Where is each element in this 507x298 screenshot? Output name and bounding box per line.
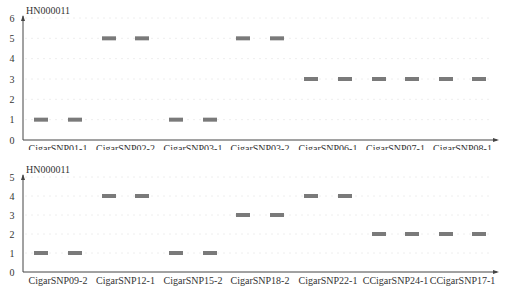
x-tick-label: CigarSNP12-1: [96, 275, 155, 286]
data-marker: [68, 251, 82, 255]
x-axis-arrow-icon: [493, 270, 499, 274]
data-marker: [405, 232, 419, 236]
data-marker: [372, 232, 386, 236]
y-tick-label: 3: [10, 210, 15, 221]
data-marker: [236, 213, 250, 217]
y-axis-arrow-icon: [21, 174, 25, 180]
data-marker: [135, 194, 149, 198]
x-tick-label: CigarSNP09-2: [29, 275, 88, 286]
chart-bottom-svg: HN000011012345CigarSNP09-2CigarSNP12-1Ci…: [0, 0, 507, 298]
chart-panel-bottom: HN000011012345CigarSNP09-2CigarSNP12-1Ci…: [0, 0, 507, 298]
x-tick-label: CigarSNP18-2: [231, 275, 290, 286]
y-tick-label: 1: [10, 248, 15, 259]
y-tick-label: 5: [10, 172, 15, 183]
x-tick-label: CigarSNP22-1: [299, 275, 358, 286]
data-marker: [338, 194, 352, 198]
y-tick-label: 2: [10, 229, 15, 240]
data-marker: [34, 251, 48, 255]
data-marker: [270, 213, 284, 217]
data-marker: [203, 251, 217, 255]
x-tick-label: CigarSNP15-2: [164, 275, 223, 286]
data-marker: [439, 232, 453, 236]
y-tick-label: 4: [10, 191, 15, 202]
x-tick-label: CCigarSNP17-1: [430, 275, 496, 286]
x-tick-label: CCigarSNP24-1: [363, 275, 429, 286]
y-tick-label: 0: [10, 267, 15, 278]
data-marker: [169, 251, 183, 255]
data-marker: [304, 194, 318, 198]
data-marker: [472, 232, 486, 236]
data-marker: [102, 194, 116, 198]
chart-title: HN000011: [26, 164, 70, 175]
